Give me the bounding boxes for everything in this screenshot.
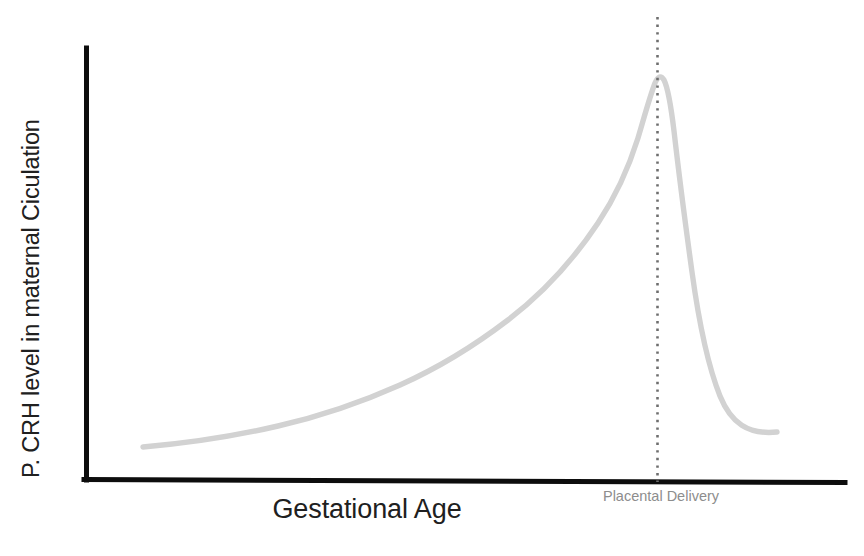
x-axis-label: Gestational Age xyxy=(186,492,548,526)
placental-delivery-annotation: Placental Delivery xyxy=(586,487,736,505)
crh-curve xyxy=(143,77,777,447)
plot-area xyxy=(0,0,864,556)
x-axis-line xyxy=(84,480,845,483)
chart-figure: P. CRH level in maternal Ciculation Gest… xyxy=(0,0,864,556)
